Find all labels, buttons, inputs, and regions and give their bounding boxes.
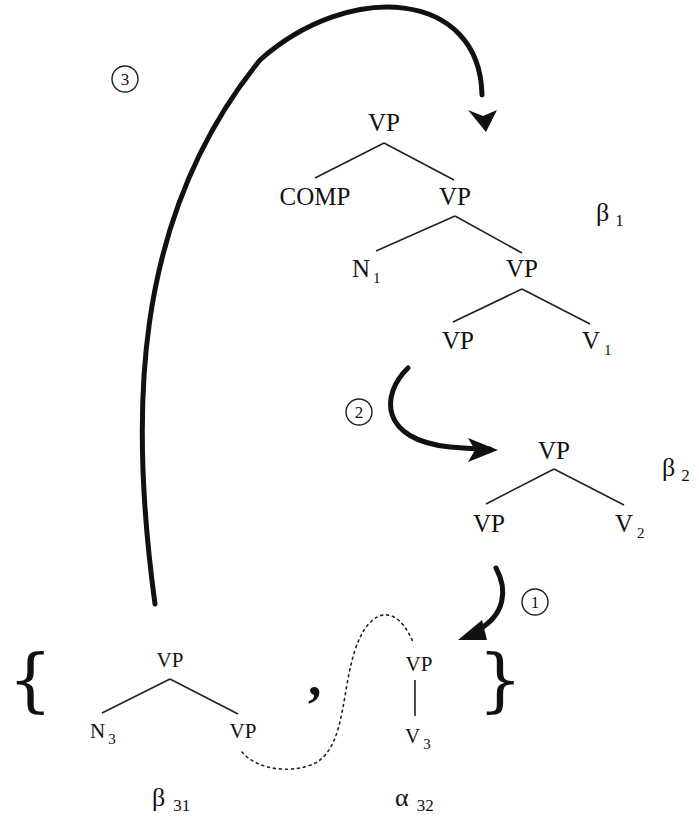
set-comma: , (308, 647, 322, 707)
beta2-v2: V2 (615, 510, 645, 541)
tree-beta-1: VP COMP VP N1 VP VP V1 β1 (280, 109, 624, 358)
beta1-vp3: VP (506, 255, 538, 282)
step-1-number: 1 (531, 593, 540, 612)
edge (315, 143, 384, 178)
beta2-root-vp: VP (538, 437, 570, 464)
beta31-n3: N3 (90, 719, 116, 747)
beta1-root-vp: VP (368, 109, 400, 136)
tree-beta-31: VP N3 VP β31 (90, 648, 256, 815)
edge (376, 216, 455, 251)
step-3-arrow (142, 7, 482, 604)
beta31-vp-foot: VP (230, 719, 257, 743)
beta31-label: β31 (152, 783, 190, 815)
beta1-v1: V1 (582, 327, 612, 358)
beta1-label: β1 (596, 198, 624, 230)
beta1-vp4-foot: VP (442, 327, 474, 354)
edge (170, 679, 238, 714)
edge (455, 216, 522, 253)
edge (453, 289, 522, 322)
dotted-connection (242, 615, 413, 769)
alpha32-v3: V3 (405, 724, 431, 752)
edge (486, 469, 554, 504)
edge (384, 143, 454, 180)
close-brace: } (478, 639, 523, 721)
alpha32-label: α32 (395, 783, 434, 815)
step-3-arrowhead-icon (468, 110, 497, 132)
edge (102, 679, 170, 713)
edge (554, 469, 624, 505)
tree-alpha-32: VP V3 α32 (395, 652, 434, 815)
open-brace: { (8, 639, 53, 721)
beta2-label: β2 (662, 453, 690, 485)
tag-derivation-diagram: VP COMP VP N1 VP VP V1 β1 VP VP V2 β2 { … (0, 0, 699, 831)
alpha32-root-vp: VP (406, 652, 433, 676)
tree-beta-2: VP VP V2 β2 (473, 437, 690, 541)
beta2-vp-foot: VP (473, 510, 505, 537)
step-3-number: 3 (121, 70, 130, 89)
step-2-number: 2 (355, 403, 364, 422)
beta1-n1: N1 (352, 255, 381, 286)
beta1-comp: COMP (280, 183, 351, 210)
beta31-root-vp: VP (157, 648, 184, 672)
step-1-arrowhead-icon (458, 620, 487, 640)
edge (522, 289, 590, 324)
beta1-vp2: VP (439, 183, 471, 210)
step-2-arrow (391, 368, 490, 449)
